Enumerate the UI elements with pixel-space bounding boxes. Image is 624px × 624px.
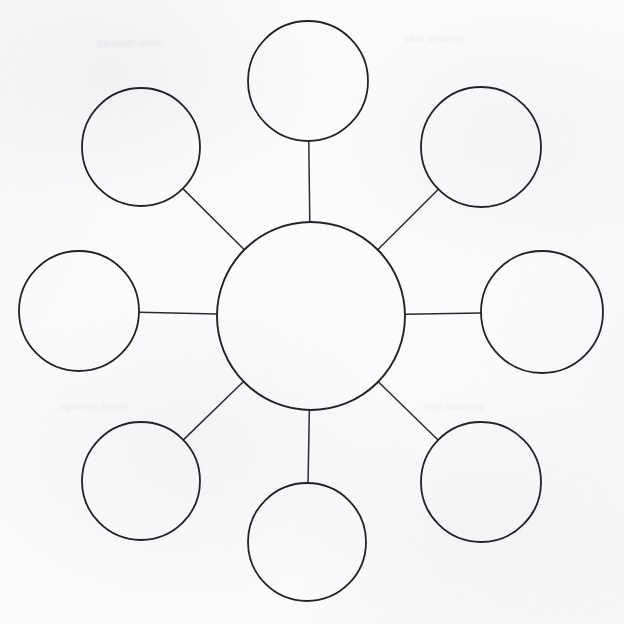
spoke-bottom-right bbox=[378, 382, 438, 440]
spoke-bottom bbox=[308, 410, 309, 483]
satellite-node-bottom-right[interactable] bbox=[421, 422, 541, 542]
satellite-node-top-left[interactable] bbox=[82, 88, 200, 206]
spoke-left bbox=[139, 312, 217, 314]
spoke-top-left bbox=[183, 189, 244, 250]
spider-diagram bbox=[0, 0, 624, 624]
satellite-node-top[interactable] bbox=[248, 21, 368, 141]
satellite-node-left[interactable] bbox=[19, 251, 139, 371]
spokes-group bbox=[139, 141, 481, 483]
satellite-node-right[interactable] bbox=[481, 251, 603, 373]
spoke-top bbox=[309, 141, 310, 222]
worksheet-sheet: show throughreverse sidebleed throughpri… bbox=[0, 0, 624, 624]
spoke-top-right bbox=[378, 189, 439, 249]
spoke-bottom-left bbox=[183, 381, 243, 439]
satellite-node-top-right[interactable] bbox=[421, 87, 541, 207]
spoke-right bbox=[405, 313, 481, 314]
satellite-node-bottom[interactable] bbox=[248, 483, 366, 601]
central-node[interactable] bbox=[217, 222, 405, 410]
satellite-node-bottom-left[interactable] bbox=[82, 422, 200, 540]
satellite-nodes-group bbox=[19, 21, 603, 601]
